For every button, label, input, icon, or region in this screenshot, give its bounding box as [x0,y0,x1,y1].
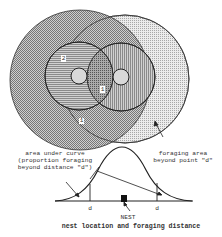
diagram-caption: nest location and foraging distance [40,223,222,230]
nest-left [71,68,87,84]
annotation-line: (proportion foraging [10,157,100,164]
region-label-1-overlap: 1 [100,86,105,93]
d-label-left: d [86,205,94,212]
foraging-diagram [0,0,222,237]
annotation-foraging-area: foraging area beyond point "d" [148,150,218,164]
nest-right [113,69,129,85]
annotation-line: foraging area [148,150,218,157]
nest-label: NEST [116,214,140,221]
annotation-line: beyond distance "d") [10,164,100,171]
region-label-1-outer: 1 [79,117,84,124]
annotation-line: beyond point "d" [148,157,218,164]
nest-marker [121,195,127,202]
region-label-2: 2 [61,55,66,62]
d-label-right: d [153,205,161,212]
annotation-area-under-curve: area under curve (proportion foraging be… [10,150,100,171]
annotation-line: area under curve [10,150,100,157]
